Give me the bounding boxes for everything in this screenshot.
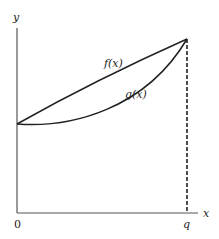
x-axis-label: x (203, 207, 210, 220)
curve-f-label: f(x) (103, 57, 123, 70)
curve-g-label: g(x) (125, 88, 147, 101)
diagram-canvas: y x 0 q f(x) g(x) (0, 0, 219, 239)
y-axis-label: y (12, 11, 20, 24)
q-label: q (183, 218, 190, 231)
origin-label: 0 (14, 218, 21, 231)
curve-g (17, 39, 187, 125)
